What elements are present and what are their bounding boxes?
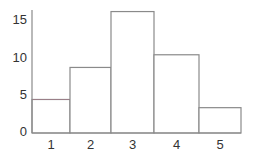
- x-tick-label: 1: [47, 137, 54, 152]
- bar-1: [32, 99, 70, 133]
- bar-3: [111, 12, 154, 133]
- histogram-chart: 051015 12345: [0, 0, 255, 154]
- bars-group: [32, 12, 241, 133]
- bar-4: [154, 55, 199, 133]
- y-tick-label: 0: [20, 124, 27, 139]
- x-tick-labels: 12345: [47, 137, 223, 152]
- x-tick-label: 3: [129, 137, 136, 152]
- bar-5: [199, 108, 241, 133]
- y-tick-label: 10: [13, 50, 27, 65]
- y-tick-label: 15: [13, 12, 27, 27]
- bar-2: [70, 67, 111, 133]
- y-tick-label: 5: [20, 87, 27, 102]
- x-tick-label: 5: [216, 137, 223, 152]
- x-tick-label: 2: [87, 137, 94, 152]
- x-tick-label: 4: [173, 137, 180, 152]
- y-tick-labels: 051015: [13, 12, 27, 139]
